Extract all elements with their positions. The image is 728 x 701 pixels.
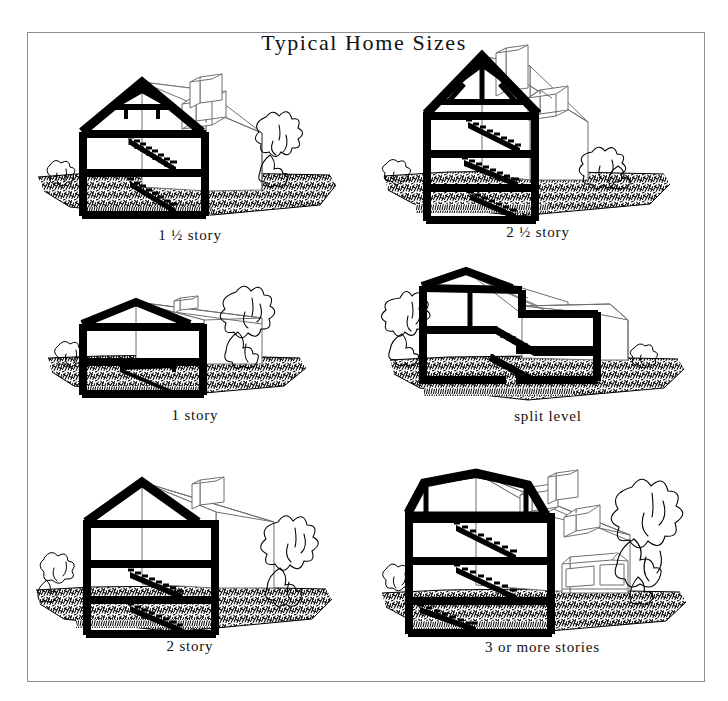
caption-split-level: split level bbox=[388, 408, 708, 425]
caption-two-and-half-story: 2 ½ story bbox=[378, 224, 698, 241]
house-drawing-three-or-more-stories bbox=[380, 465, 705, 650]
house-diagram-one-story: 1 story bbox=[40, 272, 350, 447]
house-diagram-two-and-half-story: 2 ½ story bbox=[378, 48, 698, 263]
house-drawing-one-and-half-story bbox=[30, 55, 350, 240]
house-drawing-split-level bbox=[388, 262, 708, 412]
chimney bbox=[548, 470, 578, 504]
house-diagram-one-and-half-story: 1 ½ story bbox=[30, 55, 350, 265]
house-drawing-two-story bbox=[30, 470, 350, 650]
caption-one-and-half-story: 1 ½ story bbox=[30, 227, 350, 244]
house-drawing-two-and-half-story bbox=[378, 48, 698, 240]
house-diagram-three-or-more-stories: 3 or more stories bbox=[380, 465, 705, 675]
caption-three-or-more-stories: 3 or more stories bbox=[380, 639, 705, 656]
house-drawing-one-story bbox=[40, 272, 350, 412]
chimney bbox=[192, 477, 224, 509]
caption-one-story: 1 story bbox=[40, 407, 350, 424]
house-diagram-two-story: 2 story bbox=[30, 470, 350, 675]
house-diagram-split-level: split level bbox=[388, 262, 708, 447]
caption-two-story: 2 story bbox=[30, 638, 350, 655]
illustration-page: Typical Home Sizes bbox=[0, 0, 728, 701]
